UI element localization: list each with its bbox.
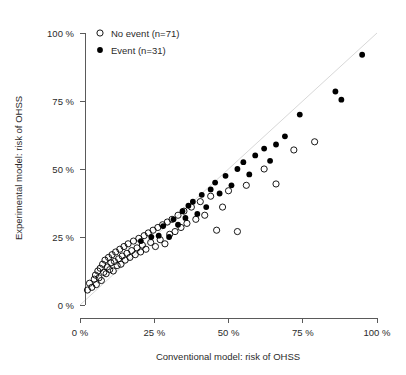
data-point-event: [138, 238, 144, 244]
data-point-no-event: [261, 166, 267, 172]
data-point-event: [160, 223, 166, 229]
data-point-event: [212, 180, 218, 186]
data-point-no-event: [150, 227, 156, 233]
chart-canvas: 0 %25 %50 %75 %100 % 0 %25 %50 %75 %100 …: [0, 0, 406, 375]
data-point-event: [203, 204, 209, 210]
y-axis-title: Experimental model: risk of OHSS: [13, 96, 24, 240]
legend-label: Event (n=31): [111, 45, 166, 56]
legend-marker-event: [97, 47, 103, 53]
chart-legend: No event (n=71)Event (n=31): [97, 28, 179, 56]
plot-axes: [80, 33, 377, 323]
data-point-event: [208, 187, 214, 193]
identity-reference-line: [80, 33, 377, 305]
legend-label: No event (n=71): [111, 28, 179, 39]
data-point-no-event: [208, 193, 214, 199]
data-point-no-event: [197, 199, 203, 205]
data-point-no-event: [291, 147, 297, 153]
data-point-no-event: [225, 188, 231, 194]
data-point-event: [252, 153, 258, 159]
data-point-no-event: [152, 243, 158, 249]
data-point-event: [190, 199, 196, 205]
data-point-event: [273, 142, 279, 148]
data-point-event: [156, 233, 162, 239]
y-tick-label: 25 %: [52, 232, 74, 243]
data-point-event: [223, 173, 229, 179]
data-point-event: [359, 52, 365, 58]
data-point-event: [186, 203, 192, 209]
x-tick-label: 75 %: [292, 327, 314, 338]
x-axis-tick-labels: 0 %25 %50 %75 %100 %: [72, 327, 391, 338]
y-tick-label: 50 %: [52, 164, 74, 175]
data-point-event: [183, 215, 189, 221]
data-point-no-event: [155, 224, 161, 230]
y-tick-label: 100 %: [47, 28, 74, 39]
data-point-event: [171, 216, 177, 222]
data-point-no-event: [234, 228, 240, 234]
data-point-event: [333, 89, 339, 95]
series-no-event-points: [84, 139, 317, 293]
x-axis-title: Conventional model: risk of OHSS: [156, 351, 300, 362]
x-tick-label: 100 %: [364, 327, 391, 338]
data-point-event: [166, 234, 172, 240]
data-point-event: [180, 208, 186, 214]
data-point-event: [229, 182, 235, 188]
data-point-event: [175, 222, 181, 228]
data-point-no-event: [184, 220, 190, 226]
data-point-no-event: [110, 268, 116, 274]
y-axis-tick-labels: 0 %25 %50 %75 %100 %: [47, 28, 74, 311]
data-point-event: [148, 234, 154, 240]
data-point-event: [217, 191, 223, 197]
data-point-event: [267, 158, 273, 164]
data-point-no-event: [273, 181, 279, 187]
identity-line: [80, 33, 377, 305]
data-point-event: [338, 97, 344, 103]
data-point-no-event: [108, 260, 114, 266]
data-point-no-event: [172, 228, 178, 234]
data-point-no-event: [202, 212, 208, 218]
legend-marker-no-event: [97, 30, 103, 36]
data-point-event: [194, 211, 200, 217]
data-point-event: [240, 159, 246, 165]
x-tick-label: 25 %: [143, 327, 165, 338]
data-point-no-event: [219, 204, 225, 210]
y-tick-label: 0 %: [58, 300, 75, 311]
data-point-no-event: [312, 139, 318, 145]
data-point-no-event: [193, 216, 199, 222]
data-point-event: [246, 172, 252, 178]
data-point-event: [199, 192, 205, 198]
data-point-event: [297, 112, 303, 118]
data-point-no-event: [143, 246, 149, 252]
x-tick-label: 50 %: [218, 327, 240, 338]
data-point-no-event: [214, 227, 220, 233]
x-tick-label: 0 %: [72, 327, 89, 338]
data-point-event: [282, 133, 288, 139]
scatter-plot-figure: 0 %25 %50 %75 %100 % 0 %25 %50 %75 %100 …: [0, 0, 406, 375]
data-point-event: [261, 146, 267, 152]
data-point-no-event: [243, 182, 249, 188]
data-point-no-event: [162, 241, 168, 247]
y-tick-label: 75 %: [52, 96, 74, 107]
data-point-event: [235, 166, 241, 172]
